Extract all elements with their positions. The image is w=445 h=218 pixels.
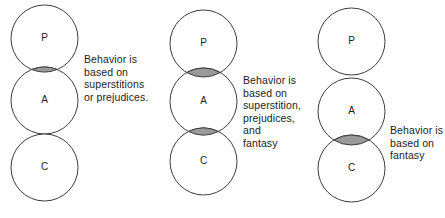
circle-a <box>170 68 237 135</box>
caption-diagram-1: Behavior is based on superstitions or pr… <box>84 53 156 103</box>
caption-diagram-3: Behavior is based on fantasy <box>390 124 445 162</box>
circle-label-a: A <box>348 105 355 116</box>
circle-p <box>170 10 237 77</box>
circle-p <box>11 5 78 72</box>
circle-a <box>11 67 78 134</box>
circle-c <box>170 128 237 195</box>
circle-label-c: C <box>348 162 355 173</box>
circle-label-p: P <box>200 37 207 48</box>
circle-label-p: P <box>348 35 355 46</box>
diagram-2: PAC <box>170 10 237 195</box>
circle-p <box>318 8 385 75</box>
overlap-lens-p-a <box>187 68 221 77</box>
circle-label-p: P <box>41 32 48 43</box>
circle-a <box>318 78 385 145</box>
circle-label-a: A <box>200 95 207 106</box>
circle-label-c: C <box>41 161 48 172</box>
circle-c <box>318 135 385 202</box>
diagram-3: PAC <box>318 8 385 202</box>
circle-c <box>11 134 78 201</box>
diagram-1: PAC <box>11 5 78 201</box>
caption-diagram-2: Behavior is based on superstition, preju… <box>243 74 315 150</box>
overlap-lens-p-a <box>32 67 57 72</box>
overlap-lens-a-c <box>189 128 219 135</box>
overlap-lens-a-c <box>334 135 369 145</box>
circle-label-a: A <box>41 94 48 105</box>
circle-label-c: C <box>200 155 207 166</box>
